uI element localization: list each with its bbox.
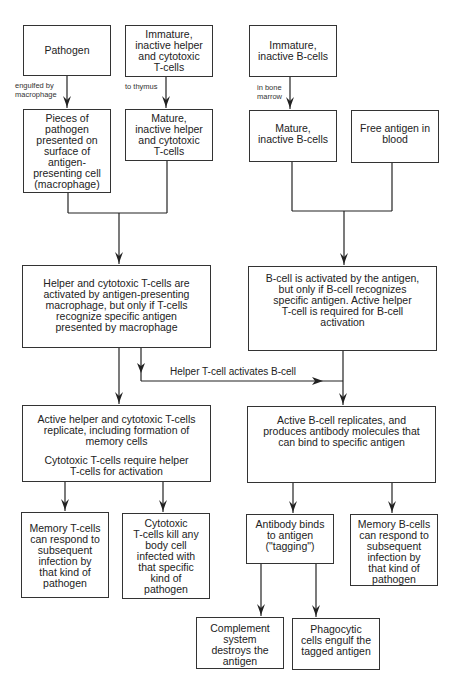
edge-label-line: engulfed by [15, 81, 57, 90]
node-immature-t-cells: Immature, inactive helper and cytotoxic … [125, 25, 213, 77]
node-text: presented on [36, 135, 97, 146]
node-text: tagged antigen [301, 646, 370, 657]
edge-label-line: marrow [257, 92, 282, 101]
node-text: Pieces of [45, 113, 88, 124]
node-text: presented by macrophage [56, 322, 178, 333]
node-antibody-binds: Antibody binds to antigen ("tagging") [246, 514, 334, 564]
edge-label-line: macrophage [15, 90, 57, 99]
node-text: pathogen [43, 578, 87, 589]
node-b-cell-replicates: Active B-cell replicates, and produces a… [247, 406, 436, 483]
node-phagocytic-cells: Phagocytic cells engulf the tagged antig… [292, 618, 380, 670]
node-cytotoxic-kill: Cytotoxic T-cells kill any body cell inf… [122, 513, 210, 599]
node-free-antigen: Free antigen in blood [351, 110, 439, 163]
node-text: Pathogen [45, 45, 90, 56]
node-pathogen: Pathogen [23, 25, 111, 76]
node-text: T-cells [154, 62, 184, 73]
node-text: activation [320, 317, 364, 328]
edge-label-bone-marrow: in bone marrow [257, 83, 282, 101]
node-text: can bind to specific antigen [278, 437, 405, 448]
node-t-cells-activated: Helper and cytotoxic T-cells are activat… [22, 265, 211, 348]
edge-label-thymus: to thymus [125, 82, 158, 91]
node-text: pathogen [45, 124, 89, 135]
node-text: pathogen [144, 584, 188, 595]
edge-label-helper-activates-b: Helper T-cell activates B-cell [170, 366, 296, 377]
node-text: memory cells [86, 436, 148, 447]
node-pathogen-pieces: Pieces of pathogen presented on surface … [23, 109, 111, 193]
node-text: surface of [44, 146, 90, 157]
node-memory-t-cells: Memory T-cells can respond to subsequent… [21, 512, 109, 598]
node-text: T-cells [154, 146, 184, 157]
node-mature-b-cells: Mature, inactive B-cells [249, 110, 337, 162]
node-text: (macrophage) [34, 179, 99, 190]
node-text: inactive B-cells [258, 134, 328, 145]
node-complement-system: Complement system destroys the antigen [196, 617, 284, 669]
edge-label-line: to thymus [125, 82, 158, 91]
node-mature-t-cells: Mature, inactive helper and cytotoxic T-… [125, 109, 213, 161]
node-immature-b-cells: Immature, inactive B-cells [249, 25, 337, 77]
edge-label-engulfed: engulfed by macrophage [15, 81, 57, 99]
node-text: antigen [223, 656, 257, 667]
node-text: inactive B-cells [258, 51, 328, 62]
node-text: ("tagging") [266, 541, 315, 552]
node-text: T-cells for activation [70, 466, 163, 477]
node-text: presenting cell [33, 168, 101, 179]
node-memory-b-cells: Memory B-cells can respond to subsequent… [350, 514, 438, 586]
edge-label-line: in bone [257, 83, 282, 92]
immune-response-flowchart: engulfed by macrophage to thymus in bone… [0, 0, 454, 688]
node-b-cell-activated: B-cell is activated by the antigen, but … [248, 266, 437, 351]
node-text: pathogen [372, 574, 416, 585]
node-text: blood [382, 134, 408, 145]
node-t-cells-replicate: Active helper and cytotoxic T-cells repl… [22, 405, 211, 482]
node-text: antigen- [48, 157, 86, 168]
